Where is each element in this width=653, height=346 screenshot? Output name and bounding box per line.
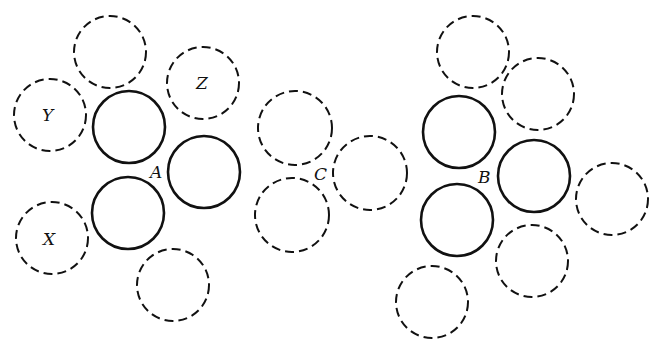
circle-a-lower-solid — [92, 177, 164, 249]
circle-a-bottom-dashed — [137, 249, 209, 321]
circle-b-bottom-left-dashed — [396, 266, 468, 338]
label-y: Y — [42, 105, 55, 125]
labels-layer: A C B X Y Z — [41, 73, 491, 249]
circle-b-lower-solid — [421, 184, 493, 256]
circle-a-upper-solid — [93, 91, 165, 163]
label-z: Z — [195, 73, 209, 93]
circle-b-top-dashed — [437, 16, 509, 88]
circle-b-right-solid — [498, 140, 570, 212]
circle-b-far-right-dashed — [576, 163, 648, 235]
label-x: X — [41, 229, 56, 249]
circle-c-bottom-dashed — [255, 178, 329, 252]
circle-c-top-dashed — [258, 91, 332, 165]
label-b: B — [477, 167, 491, 187]
circles-layer — [14, 16, 648, 338]
circle-c-right-dashed — [333, 136, 407, 210]
label-a: A — [148, 162, 162, 182]
circle-b-upper-right-dashed — [502, 58, 574, 130]
circle-b-upper-solid — [423, 96, 495, 168]
circle-a-right-solid — [168, 136, 240, 208]
label-c: C — [314, 164, 327, 184]
circle-b-lower-dashed — [496, 225, 568, 297]
circle-packing-diagram: A C B X Y Z — [0, 0, 653, 346]
circle-a-top-dashed — [74, 16, 146, 88]
